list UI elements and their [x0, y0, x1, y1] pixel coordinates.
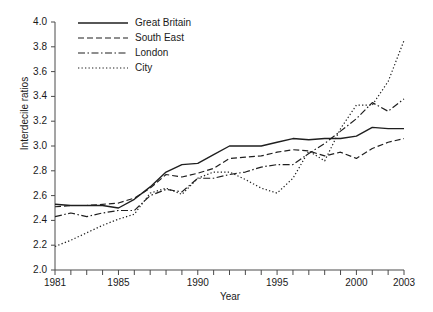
- y-axis-tick-label: 2.0: [17, 265, 47, 275]
- x-axis-tick-label: 1985: [98, 278, 138, 288]
- x-axis-tick-label: 2003: [384, 278, 424, 288]
- y-axis-tick-label: 2.2: [17, 240, 47, 250]
- legend-label-south-east: South East: [135, 33, 184, 43]
- series-line-city: [55, 41, 404, 247]
- y-axis-tick-label: 2.4: [17, 215, 47, 225]
- legend-label-city: City: [135, 63, 152, 73]
- x-axis-tick-label: 2000: [336, 278, 376, 288]
- chart-plot-area: [0, 0, 433, 312]
- chart-figure: Great BritainSouth EastLondonCity4.03.83…: [0, 0, 433, 312]
- y-axis-tick-label: 4.0: [17, 17, 47, 27]
- series-line-south-east: [55, 139, 404, 207]
- legend-label-great-britain: Great Britain: [135, 18, 191, 28]
- legend-label-london: London: [135, 48, 168, 58]
- x-axis-tick-label: 1990: [178, 278, 218, 288]
- series-line-great-britain: [55, 127, 404, 208]
- x-axis-tick-label: 1981: [35, 278, 75, 288]
- y-axis-tick-label: 2.6: [17, 191, 47, 201]
- x-axis-title: Year: [55, 291, 405, 302]
- x-axis-tick-label: 1995: [257, 278, 297, 288]
- y-axis-title: Interdecile ratios: [19, 54, 30, 174]
- y-axis-tick-label: 3.8: [17, 42, 47, 52]
- series-line-london: [55, 99, 404, 217]
